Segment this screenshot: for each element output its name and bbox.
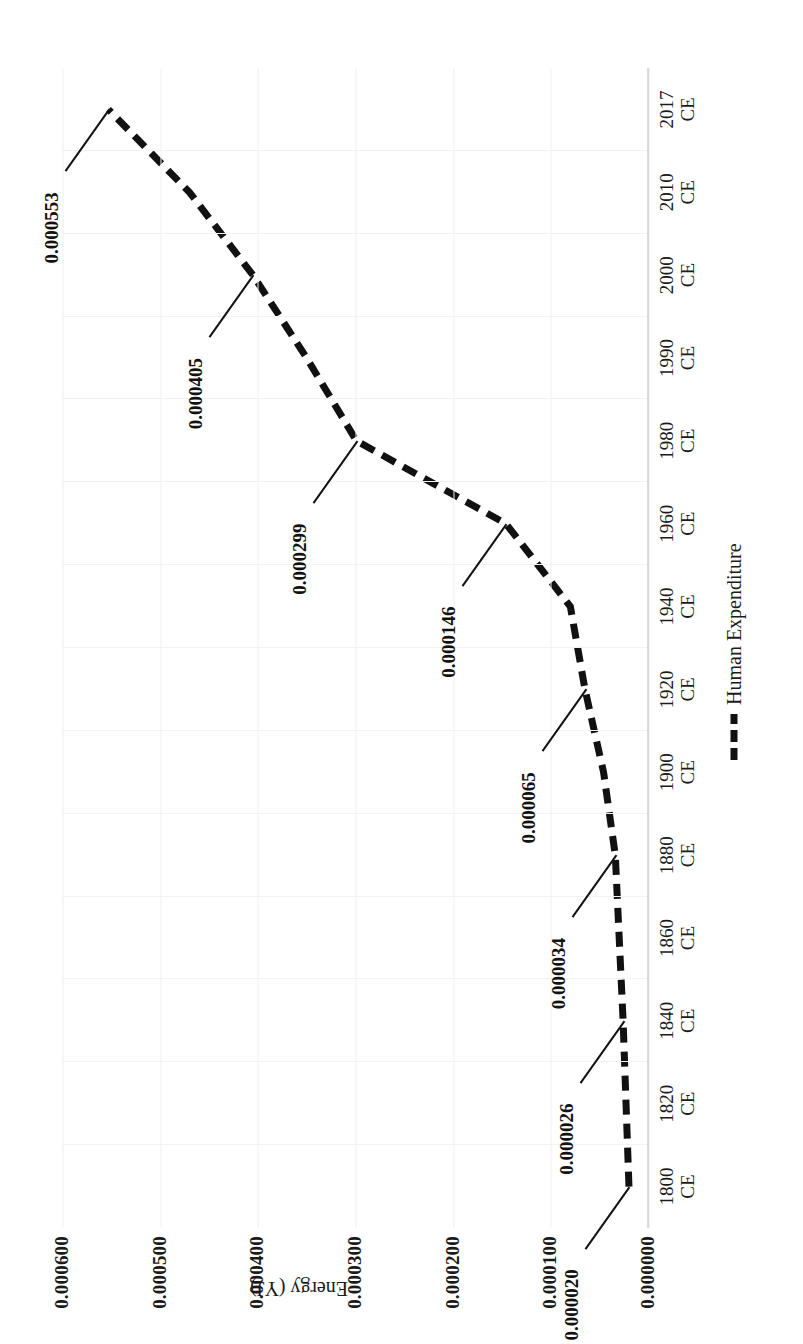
gridline-0.000400 — [257, 68, 258, 1228]
x-tick-era: CE — [677, 147, 698, 237]
legend-dashed-line-icon — [730, 714, 737, 760]
x-tick-era: CE — [677, 1142, 698, 1232]
x-tick-1820: 1820CE — [656, 1059, 697, 1149]
data-label: 0.000020 — [560, 1269, 582, 1340]
category-gridline — [62, 398, 648, 399]
category-gridline — [62, 481, 648, 482]
x-tick-era: CE — [677, 644, 698, 734]
x-tick-era: CE — [677, 479, 698, 569]
y-tick-label: 0.000000 — [636, 1236, 658, 1344]
data-label: 0.000146 — [437, 606, 459, 677]
x-tick-era: CE — [677, 64, 698, 154]
x-tick-era: CE — [677, 1059, 698, 1149]
data-label: 0.000405 — [184, 358, 206, 429]
x-tick-year: 1900 — [656, 727, 677, 817]
x-tick-year: 1800 — [656, 1142, 677, 1232]
x-tick-1960: 1960CE — [656, 479, 697, 569]
x-tick-1880: 1880CE — [656, 810, 697, 900]
x-tick-1980: 1980CE — [656, 396, 697, 486]
x-tick-year: 2000 — [656, 230, 677, 320]
x-tick-year: 1940 — [656, 562, 677, 652]
data-label: 0.000065 — [517, 772, 539, 843]
x-tick-1990: 1990CE — [656, 313, 697, 403]
category-gridline — [62, 647, 648, 648]
x-tick-era: CE — [677, 313, 698, 403]
x-tick-1860: 1860CE — [656, 893, 697, 983]
y-tick-label: 0.000300 — [343, 1236, 365, 1344]
gridline-0.000100 — [550, 68, 551, 1228]
x-tick-year: 1980 — [656, 396, 677, 486]
x-tick-year: 1960 — [656, 479, 677, 569]
y-tick-label: 0.000400 — [245, 1236, 267, 1344]
data-label: 0.000299 — [288, 524, 310, 595]
x-tick-1800: 1800CE — [656, 1142, 697, 1232]
x-tick-year: 2010 — [656, 147, 677, 237]
value-axis-baseline — [647, 68, 648, 1228]
x-tick-2017: 2017CE — [656, 64, 697, 154]
x-tick-year: 1860 — [656, 893, 677, 983]
y-tick-label: 0.000100 — [538, 1236, 560, 1344]
y-tick-label: 0.000600 — [50, 1236, 72, 1344]
x-tick-era: CE — [677, 893, 698, 983]
x-tick-era: CE — [677, 976, 698, 1066]
gridline-0.000500 — [160, 68, 161, 1228]
data-label: 0.000026 — [555, 1104, 577, 1175]
x-tick-year: 1880 — [656, 810, 677, 900]
gridline-0.000300 — [355, 68, 356, 1228]
x-tick-year: 1840 — [656, 976, 677, 1066]
category-gridline — [62, 316, 648, 317]
x-tick-1920: 1920CE — [656, 644, 697, 734]
x-tick-era: CE — [677, 562, 698, 652]
x-tick-1940: 1940CE — [656, 562, 697, 652]
x-tick-year: 1820 — [656, 1059, 677, 1149]
y-tick-label: 0.000500 — [148, 1236, 170, 1344]
x-tick-era: CE — [677, 396, 698, 486]
x-tick-1840: 1840CE — [656, 976, 697, 1066]
category-gridline — [62, 1061, 648, 1062]
x-tick-year: 2017 — [656, 64, 677, 154]
category-gridline — [62, 564, 648, 565]
data-label: 0.000553 — [40, 192, 62, 263]
x-tick-1900: 1900CE — [656, 727, 697, 817]
x-tick-era: CE — [677, 727, 698, 817]
y-axis-title: Energy (YJ) — [0, 1277, 599, 1300]
category-gridline — [62, 896, 648, 897]
category-gridline — [62, 233, 648, 234]
plot-area: 0.0000200.0000260.0000340.0000650.000146… — [62, 68, 648, 1228]
category-gridline — [62, 730, 648, 731]
x-tick-2000: 2000CE — [656, 230, 697, 320]
legend-label-human-expenditure: Human Expenditure — [722, 543, 745, 705]
x-tick-2010: 2010CE — [656, 147, 697, 237]
chart-legend: Human Expenditure — [722, 543, 745, 760]
x-tick-year: 1920 — [656, 644, 677, 734]
x-tick-year: 1990 — [656, 313, 677, 403]
category-gridline — [62, 150, 648, 151]
y-tick-label: 0.000200 — [441, 1236, 463, 1344]
x-tick-era: CE — [677, 810, 698, 900]
category-gridline — [62, 813, 648, 814]
data-label: 0.000034 — [547, 938, 569, 1009]
x-tick-era: CE — [677, 230, 698, 320]
